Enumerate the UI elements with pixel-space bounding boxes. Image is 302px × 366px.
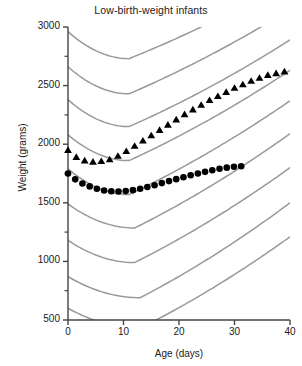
data-point-triangle (139, 137, 147, 144)
data-point-triangle (156, 126, 164, 133)
data-point-triangle (222, 88, 230, 95)
data-point-circle (108, 188, 115, 195)
data-point-triangle (256, 74, 264, 81)
circle-series (65, 163, 245, 195)
chart-figure: Low-birth-weight infants Weight (grams) … (0, 0, 302, 366)
data-point-circle (94, 185, 101, 192)
reference-curves-group (68, 0, 290, 328)
percentile-curve-9 (68, 237, 290, 328)
data-point-circle (166, 178, 173, 185)
data-point-triangle (264, 71, 272, 78)
percentile-curve-2 (68, 9, 290, 93)
data-point-circle (238, 163, 245, 170)
triangle-series (64, 68, 288, 165)
data-point-triangle (122, 147, 130, 154)
data-point-circle (180, 174, 187, 181)
data-point-triangle (189, 106, 197, 113)
caption-strip (0, 360, 302, 366)
data-point-circle (72, 176, 79, 183)
data-point-triangle (272, 70, 280, 77)
data-point-circle (209, 167, 216, 174)
data-point-triangle (131, 142, 139, 149)
data-point-triangle (281, 68, 289, 75)
data-point-circle (79, 180, 86, 187)
data-point-circle (195, 170, 202, 177)
data-point-circle (187, 172, 194, 179)
data-point-circle (223, 164, 230, 171)
percentile-curve-7 (68, 168, 290, 263)
data-point-circle (216, 166, 223, 173)
data-point-triangle (97, 157, 105, 164)
percentile-curve-4 (68, 70, 290, 160)
data-point-triangle (231, 84, 239, 91)
data-point-circle (202, 169, 209, 176)
data-point-triangle (81, 157, 89, 164)
data-point-circle (137, 185, 144, 192)
data-point-triangle (239, 81, 247, 88)
data-point-triangle (181, 111, 189, 118)
percentile-curve-8 (68, 203, 290, 298)
data-point-circle (101, 187, 108, 194)
plot-area (0, 0, 302, 366)
data-point-circle (65, 170, 72, 177)
data-point-triangle (172, 116, 180, 123)
data-point-circle (144, 184, 151, 191)
data-point-triangle (72, 153, 80, 160)
data-point-triangle (197, 101, 205, 108)
data-point-circle (122, 188, 129, 195)
data-point-triangle (64, 146, 72, 153)
data-point-triangle (147, 132, 155, 139)
data-point-triangle (206, 96, 214, 103)
data-point-circle (159, 180, 166, 187)
data-point-circle (231, 164, 238, 171)
data-point-triangle (114, 152, 122, 159)
reference-curves-clipped (68, 0, 290, 328)
data-point-triangle (247, 77, 255, 84)
data-point-triangle (89, 158, 97, 165)
data-point-circle (173, 176, 180, 183)
data-point-circle (115, 188, 122, 195)
data-point-circle (151, 182, 158, 189)
data-point-circle (86, 183, 93, 190)
data-point-triangle (164, 121, 172, 128)
data-point-circle (130, 187, 137, 194)
data-point-triangle (214, 92, 222, 99)
